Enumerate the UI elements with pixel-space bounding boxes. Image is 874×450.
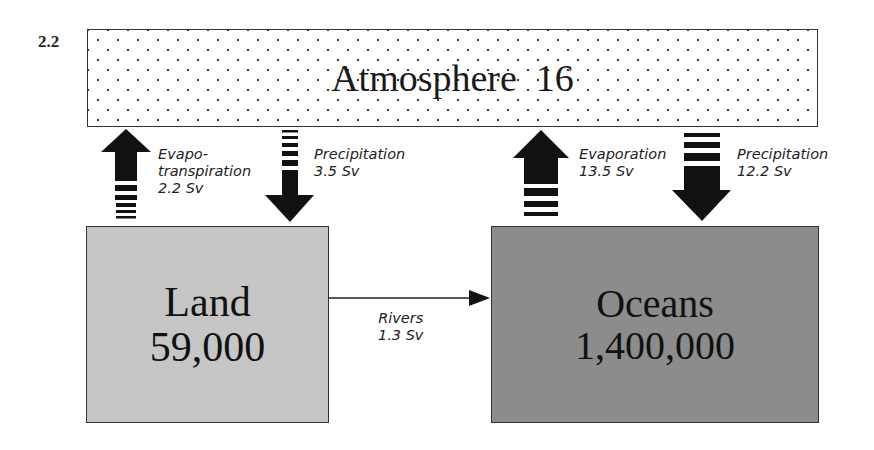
land-precipitation-label: Precipitation 3.5 Sv: [314, 146, 405, 180]
rivers-value: 1.3 Sv: [378, 327, 423, 344]
rivers-arrow-icon: [0, 0, 874, 450]
evapotranspiration-value: 2.2 Sv: [158, 180, 251, 197]
land-precipitation-line1: Precipitation: [314, 146, 405, 163]
ocean-precipitation-line1: Precipitation: [737, 146, 828, 163]
ocean-precipitation-label: Precipitation 12.2 Sv: [737, 146, 828, 180]
evapotranspiration-line2: transpiration: [158, 163, 251, 180]
evaporation-line1: Evaporation: [579, 146, 666, 163]
land-precipitation-value: 3.5 Sv: [314, 163, 405, 180]
evapotranspiration-line1: Evapo-: [158, 146, 251, 163]
evaporation-label: Evaporation 13.5 Sv: [579, 146, 666, 180]
rivers-line1: Rivers: [378, 310, 423, 327]
evaporation-value: 13.5 Sv: [579, 163, 666, 180]
rivers-label: Rivers 1.3 Sv: [378, 310, 423, 344]
ocean-precipitation-value: 12.2 Sv: [737, 163, 828, 180]
evapotranspiration-label: Evapo- transpiration 2.2 Sv: [158, 146, 251, 197]
